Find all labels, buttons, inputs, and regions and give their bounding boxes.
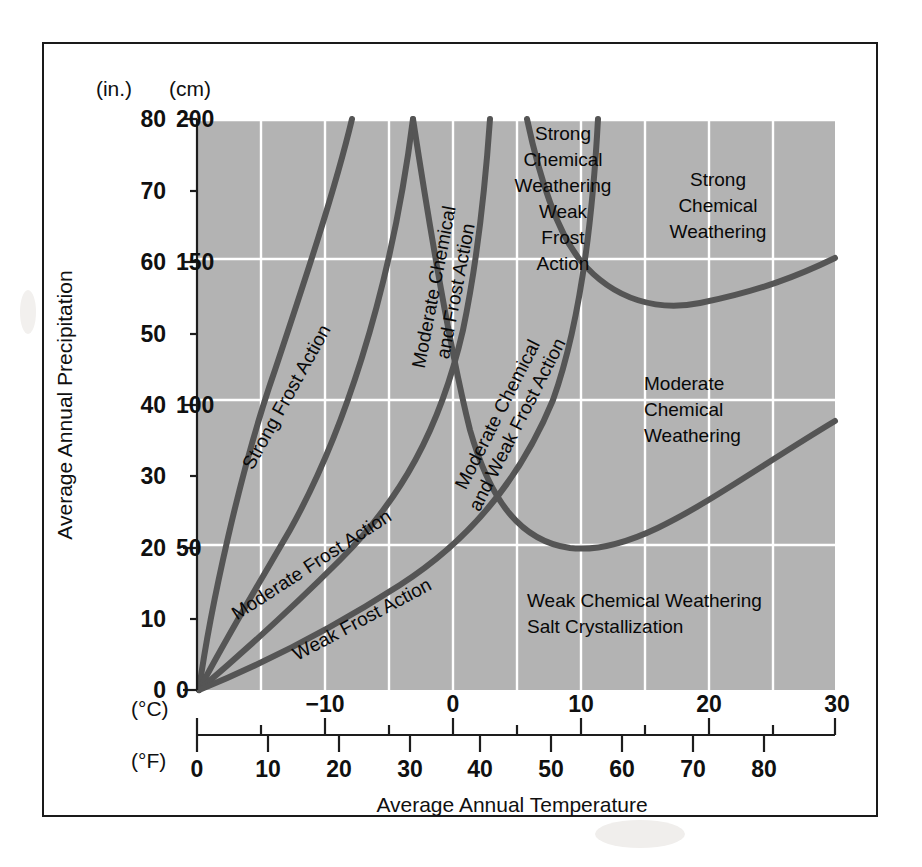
region-label-line: Salt Crystallization bbox=[527, 616, 683, 637]
region-label-line: Moderate bbox=[644, 373, 724, 394]
region-label-line: Chemical bbox=[523, 149, 602, 170]
y-label-cm-0: 0 bbox=[176, 677, 189, 703]
region-label-line: Chemical bbox=[644, 399, 723, 420]
x-axis-title: Average Annual Temperature bbox=[376, 793, 647, 816]
x-label-f-10: 10 bbox=[255, 756, 281, 782]
region-label-line: Weak bbox=[539, 201, 588, 222]
region-label-line: Action bbox=[537, 253, 590, 274]
x-label-c-10: 10 bbox=[568, 691, 594, 717]
x-label-f-40: 40 bbox=[467, 756, 493, 782]
x-label-f-70: 70 bbox=[680, 756, 706, 782]
x-unit-fahrenheit-label: (°F) bbox=[131, 749, 166, 772]
x-unit-celsius-label: (°C) bbox=[131, 697, 169, 720]
x-label-f-50: 50 bbox=[538, 756, 564, 782]
region-label-line: Weak Chemical Weathering bbox=[527, 590, 762, 611]
region-label-line: Weathering bbox=[670, 221, 767, 242]
x-label-f-0: 0 bbox=[191, 756, 204, 782]
x-label-f-80: 80 bbox=[751, 756, 777, 782]
x-label-f-60: 60 bbox=[609, 756, 635, 782]
y-label-in-20: 20 bbox=[140, 535, 166, 561]
x-label-f-20: 20 bbox=[326, 756, 352, 782]
region-label-line: Strong bbox=[535, 123, 591, 144]
y-label-in-60: 60 bbox=[140, 249, 166, 275]
y-label-cm-100: 100 bbox=[176, 392, 214, 418]
y-label-in-10: 10 bbox=[140, 606, 166, 632]
y-label-in-80: 80 bbox=[140, 106, 166, 132]
x-label-c-0: 0 bbox=[447, 691, 460, 717]
region-label-line: Weathering bbox=[515, 175, 612, 196]
y-axis: (in.) (cm) 80 70 60 50 40 30 20 10 0 200… bbox=[53, 77, 214, 703]
x-label-c-minus10: −10 bbox=[305, 691, 344, 717]
figure-page: (in.) (cm) 80 70 60 50 40 30 20 10 0 200… bbox=[0, 0, 922, 867]
region-label-line: Frost bbox=[541, 227, 585, 248]
y-label-cm-50: 50 bbox=[176, 535, 202, 561]
y-label-in-40: 40 bbox=[140, 392, 166, 418]
x-label-f-30: 30 bbox=[397, 756, 423, 782]
y-label-cm-150: 150 bbox=[176, 249, 214, 275]
region-label-line: Chemical bbox=[678, 195, 757, 216]
y-label-in-30: 30 bbox=[140, 463, 166, 489]
region-label-line: Weathering bbox=[644, 425, 741, 446]
chart-svg: (in.) (cm) 80 70 60 50 40 30 20 10 0 200… bbox=[0, 0, 922, 867]
y-axis-title: Average Annual Precipitation bbox=[53, 270, 76, 539]
x-label-c-30: 30 bbox=[824, 691, 850, 717]
y-label-in-70: 70 bbox=[140, 178, 166, 204]
y-label-cm-200: 200 bbox=[176, 106, 214, 132]
region-label-line: Strong bbox=[690, 169, 746, 190]
y-label-in-50: 50 bbox=[140, 321, 166, 347]
x-axis: −10 0 10 20 30 0 10 20 30 40 50 60 70 80… bbox=[131, 691, 850, 816]
y-unit-inches-label: (in.) bbox=[96, 77, 132, 100]
x-label-c-20: 20 bbox=[696, 691, 722, 717]
y-unit-cm-label: (cm) bbox=[169, 77, 211, 100]
